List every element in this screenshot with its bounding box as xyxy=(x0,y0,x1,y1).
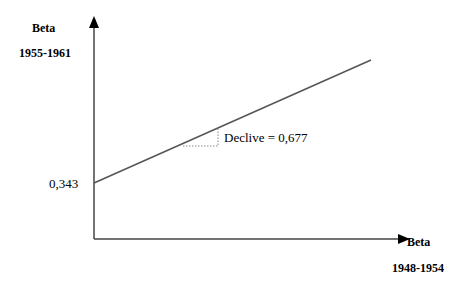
intercept-label: 0,343 xyxy=(49,176,78,192)
x-axis-label-line1: Beta xyxy=(407,235,430,250)
slope-label: Declive = 0,677 xyxy=(224,130,308,146)
regression-line xyxy=(94,60,371,183)
y-axis-label-line2: 1955-1961 xyxy=(19,46,71,61)
slope-triangle xyxy=(183,129,218,146)
y-axis-arrow-icon xyxy=(89,16,99,28)
y-axis-label-line1: Beta xyxy=(32,21,55,36)
x-axis-label-line2: 1948-1954 xyxy=(392,261,444,276)
